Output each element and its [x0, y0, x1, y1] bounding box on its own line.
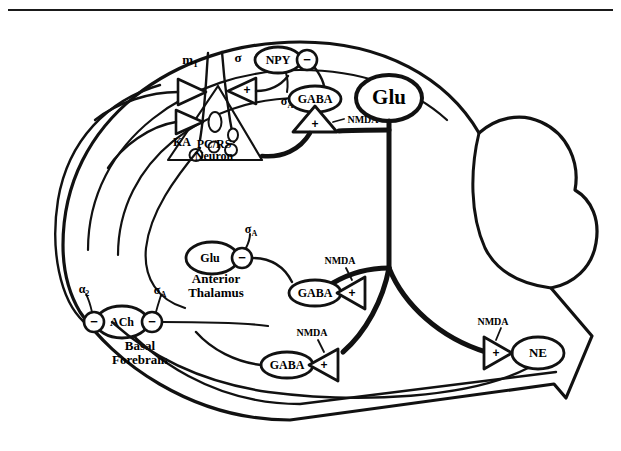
node-glu-main[interactable]: Glu	[356, 75, 422, 121]
sigma-terminal-triangle	[228, 78, 256, 104]
ne-plus-sign: +	[492, 346, 499, 360]
sigma-receptor-label: σ	[234, 50, 241, 65]
gaba-cortex-plus-sign: +	[311, 117, 318, 131]
ach-right-minus-sign: −	[148, 314, 156, 329]
node-npy[interactable]: NPY	[255, 47, 301, 73]
ne-nmda-synapse: + NMDA	[477, 316, 512, 369]
ne-label: NE	[529, 345, 547, 360]
gaba-lower-to-ach-wire	[196, 332, 261, 365]
anterior-thalamus-label-line2: Thalamus	[188, 285, 244, 300]
circuit-diagram: m1 KA + σ PC/RS Neuron NPY −	[0, 0, 621, 451]
glu-main-label: Glu	[372, 85, 406, 109]
basal-forebrain-label-line2: Forebrain	[112, 352, 169, 367]
vesicle-1	[209, 112, 222, 132]
glu-thalamus-label: Glu	[200, 251, 220, 265]
glu-branch-to-ne	[389, 268, 486, 352]
gaba-lower-label: GABA	[270, 358, 305, 372]
npy-label: NPY	[266, 53, 291, 67]
gaba-lower-nmda-lead	[318, 340, 324, 352]
gaba-mid-plus-sign: +	[348, 286, 355, 300]
ach-left-minus-sign: −	[90, 314, 98, 329]
gaba-mid-nmda-label: NMDA	[324, 255, 356, 266]
pc-rs-neuron-label-line2: Neuron	[195, 149, 234, 163]
ach-left-minus-synapse: −	[84, 312, 104, 332]
anterior-thalamus-label-line1: Anterior	[192, 271, 241, 286]
npy-sigma-a-lead	[286, 73, 288, 92]
ach-label: ACh	[110, 315, 134, 329]
ach-alpha2-label: α2	[79, 282, 90, 298]
ach-right-minus-synapse: −	[142, 312, 162, 332]
thalamus-sigma-a-lead	[246, 234, 250, 248]
gaba-lower-plus-sign: +	[320, 358, 327, 372]
gaba-cortex-nmda-lead	[333, 119, 344, 122]
thalamus-minus-synapse: −	[232, 248, 252, 268]
ne-nmda-label: NMDA	[477, 316, 509, 327]
apical-dendrite-left	[200, 53, 208, 140]
thalamus-minus-sign: −	[238, 250, 246, 265]
m1-receptor-label: m1	[182, 52, 198, 69]
gaba-cortex-label: GABA	[298, 92, 333, 106]
node-gaba-mid[interactable]: GABA	[289, 280, 341, 306]
ne-nmda-lead	[496, 328, 501, 340]
figure-root: m1 KA + σ PC/RS Neuron NPY −	[0, 0, 621, 451]
node-glu-thalamus[interactable]: Glu	[186, 242, 238, 274]
ach-sigma-a-label: σA	[154, 283, 167, 299]
thalamus-to-gaba-mid-wire	[252, 258, 292, 282]
glu-branch-to-cortex-gaba	[339, 130, 389, 131]
thalamus-sigma-a-label: σA	[245, 222, 258, 238]
node-gaba-lower[interactable]: GABA	[261, 352, 313, 378]
gaba-lower-nmda-label: NMDA	[296, 327, 328, 338]
sigma-afferent-wire	[256, 76, 288, 91]
ach-right-output-wire	[162, 322, 268, 326]
sigma-sign: +	[243, 83, 250, 97]
gaba-mid-label: GABA	[298, 286, 333, 300]
npy-minus-sign: −	[303, 52, 311, 67]
gaba-cortex-output-wire	[262, 133, 310, 156]
cerebellum-separation	[473, 133, 551, 288]
m1-terminal-triangle	[178, 79, 206, 105]
node-ne[interactable]: NE	[512, 337, 564, 369]
ka-receptor-label: KA	[173, 135, 191, 149]
npy-minus-synapse: −	[297, 50, 317, 70]
